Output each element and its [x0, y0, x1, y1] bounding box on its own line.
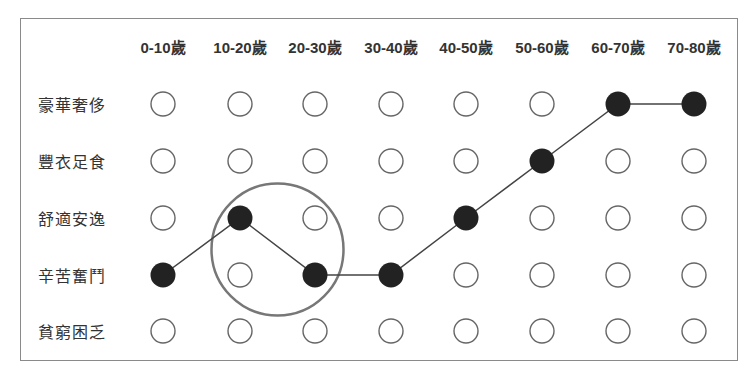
- empty-dot: [379, 319, 403, 343]
- path-line: [163, 104, 694, 275]
- empty-dot: [682, 319, 706, 343]
- empty-dot: [303, 319, 327, 343]
- filled-dot: [228, 206, 253, 231]
- empty-dot: [606, 319, 630, 343]
- empty-dot: [151, 319, 175, 343]
- empty-dot: [454, 319, 478, 343]
- empty-dot: [682, 263, 706, 287]
- highlight-circle: [212, 184, 344, 316]
- empty-dot: [228, 263, 252, 287]
- empty-dot: [454, 149, 478, 173]
- empty-dot: [151, 92, 175, 116]
- empty-dot: [303, 92, 327, 116]
- empty-dot: [606, 263, 630, 287]
- empty-dot: [530, 319, 554, 343]
- empty-dot: [379, 92, 403, 116]
- empty-dot: [454, 263, 478, 287]
- empty-dot: [303, 149, 327, 173]
- empty-dot: [606, 149, 630, 173]
- empty-dot: [228, 92, 252, 116]
- filled-dot: [606, 92, 631, 117]
- empty-dot: [151, 149, 175, 173]
- empty-dot: [151, 206, 175, 230]
- empty-dot: [379, 206, 403, 230]
- empty-dot: [530, 92, 554, 116]
- life-path-plot: [0, 0, 752, 378]
- empty-dot: [454, 92, 478, 116]
- filled-dot: [454, 206, 479, 231]
- filled-dot: [303, 263, 328, 288]
- empty-dot: [530, 206, 554, 230]
- filled-dot: [682, 92, 707, 117]
- empty-dot: [379, 149, 403, 173]
- empty-dot: [682, 206, 706, 230]
- empty-dot: [228, 319, 252, 343]
- empty-dot: [606, 206, 630, 230]
- empty-dot: [303, 206, 327, 230]
- empty-dot: [228, 149, 252, 173]
- filled-dot: [379, 263, 404, 288]
- filled-dot: [530, 149, 555, 174]
- empty-dot: [530, 263, 554, 287]
- empty-dot: [682, 149, 706, 173]
- filled-dot: [151, 263, 176, 288]
